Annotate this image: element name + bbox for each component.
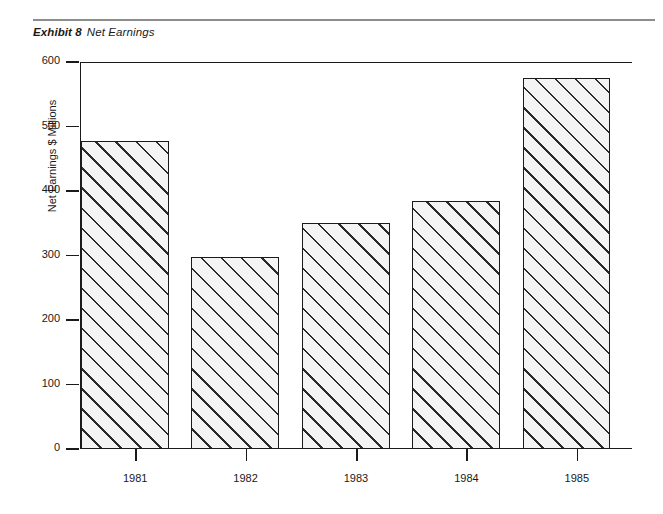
y-tick-mark — [66, 448, 79, 450]
x-tick-mark — [577, 449, 579, 461]
x-tick-mark — [135, 449, 137, 461]
bar-1982 — [191, 257, 279, 449]
y-tick-mark — [66, 126, 79, 128]
y-tick-mark — [66, 255, 79, 257]
bar-chart: Net Earnings $ Millions 0100200300400500… — [0, 0, 663, 514]
y-tick-label: 400 — [0, 183, 60, 195]
y-axis-title: Net Earnings $ Millions — [46, 66, 58, 246]
x-tick-label: 1982 — [206, 472, 286, 484]
x-tick-mark — [356, 449, 358, 461]
y-tick-mark — [66, 190, 79, 192]
y-tick-mark — [66, 61, 79, 63]
bar-1984 — [412, 201, 500, 449]
x-tick-label: 1983 — [316, 472, 396, 484]
x-tick-label: 1981 — [95, 472, 175, 484]
y-tick-label: 200 — [0, 312, 60, 324]
y-tick-label: 100 — [0, 377, 60, 389]
bar-1985 — [523, 78, 611, 449]
bar-1981 — [81, 141, 169, 449]
y-tick-label: 0 — [0, 441, 60, 453]
x-tick-label: 1984 — [426, 472, 506, 484]
x-tick-mark — [466, 449, 468, 461]
y-tick-mark — [66, 319, 79, 321]
y-tick-label: 600 — [0, 54, 60, 66]
bar-1983 — [302, 223, 390, 449]
x-tick-label: 1985 — [537, 472, 617, 484]
y-tick-label: 500 — [0, 119, 60, 131]
y-tick-label: 300 — [0, 248, 60, 260]
x-tick-mark — [246, 449, 248, 461]
y-tick-mark — [66, 384, 79, 386]
